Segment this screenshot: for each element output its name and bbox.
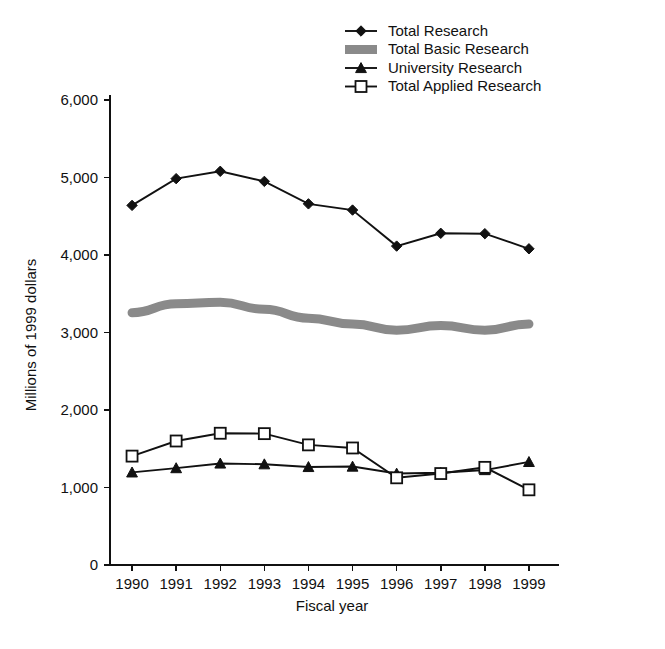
data-point-diamond [215, 166, 225, 176]
y-tick-label: 0 [90, 556, 98, 573]
x-tick-label: 1990 [115, 575, 148, 592]
series-2 [132, 302, 529, 330]
data-point-square [356, 81, 367, 92]
data-point-triangle [524, 457, 535, 467]
data-point-diamond [524, 244, 534, 254]
series-4 [127, 428, 535, 496]
chart-figure: Total ResearchTotal Basic ResearchUniver… [0, 0, 665, 649]
plot-area [127, 166, 535, 495]
legend-band-swatch [345, 45, 377, 54]
y-tick-label: 3,000 [60, 324, 98, 341]
line-chart: Total ResearchTotal Basic ResearchUniver… [0, 0, 665, 649]
x-tick-label: 1993 [248, 575, 281, 592]
series-3 [127, 457, 535, 479]
x-tick-label: 1991 [159, 575, 192, 592]
data-point-diamond [480, 228, 490, 238]
x-tick-label: 1995 [336, 575, 369, 592]
x-tick-label: 1999 [512, 575, 545, 592]
basic-research-band [132, 302, 529, 330]
y-tick-label: 2,000 [60, 401, 98, 418]
x-tick-label: 1998 [468, 575, 501, 592]
data-point-diamond [303, 199, 313, 209]
data-point-square [171, 436, 182, 447]
data-point-square [391, 472, 402, 483]
data-point-diamond [259, 176, 269, 186]
series-1 [127, 166, 534, 254]
data-point-square [259, 428, 270, 439]
legend-item-1[interactable]: Total Research [345, 22, 488, 39]
x-tick-label: 1997 [424, 575, 457, 592]
series-line [132, 462, 529, 474]
y-tick-label: 4,000 [60, 246, 98, 263]
y-tick-label: 6,000 [60, 91, 98, 108]
series-line [132, 433, 529, 490]
legend-label: University Research [388, 59, 522, 76]
y-axis-title: Millions of 1999 dollars [22, 259, 39, 412]
legend-item-4[interactable]: Total Applied Research [345, 77, 541, 94]
data-point-diamond [127, 200, 137, 210]
legend-label: Total Basic Research [388, 40, 529, 57]
x-axis-title: Fiscal year [296, 597, 369, 614]
data-point-square [523, 484, 534, 495]
x-tick-label: 1994 [292, 575, 325, 592]
x-tick-label: 1992 [204, 575, 237, 592]
data-point-square [435, 468, 446, 479]
legend-label: Total Applied Research [388, 77, 541, 94]
data-point-diamond [436, 228, 446, 238]
data-point-square [127, 451, 138, 462]
y-axis: 01,0002,0003,0004,0005,0006,000 [60, 91, 110, 573]
data-point-square [303, 439, 314, 450]
x-tick-label: 1996 [380, 575, 413, 592]
y-tick-label: 1,000 [60, 479, 98, 496]
legend-item-3[interactable]: University Research [345, 59, 522, 76]
x-axis: 1990199119921993199419951996199719981999 [110, 565, 559, 592]
legend: Total ResearchTotal Basic ResearchUniver… [345, 22, 541, 95]
data-point-square [215, 428, 226, 439]
data-point-square [347, 442, 358, 453]
y-tick-label: 5,000 [60, 169, 98, 186]
data-point-diamond [171, 173, 181, 183]
data-point-square [479, 462, 490, 473]
series-line [132, 171, 529, 249]
data-point-diamond [356, 26, 366, 36]
legend-label: Total Research [388, 22, 488, 39]
legend-item-2[interactable]: Total Basic Research [345, 40, 529, 57]
